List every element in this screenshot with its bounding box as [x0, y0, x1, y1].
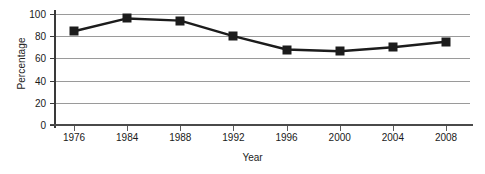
series-line [0, 0, 485, 174]
x-axis-title: Year [0, 152, 485, 163]
x-axis-title-text: Year [242, 152, 262, 163]
line-chart-figure: Percentage 02040608010019761984198819921… [0, 0, 485, 174]
